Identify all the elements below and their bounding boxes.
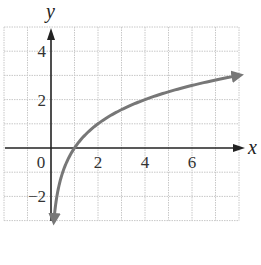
y-tick-label: 2: [38, 91, 47, 110]
x-tick-label: 4: [141, 153, 150, 172]
y-tick-label: −2: [28, 187, 46, 206]
y-axis-label: y: [44, 0, 55, 23]
x-tick-label: 6: [188, 153, 197, 172]
function-graph: x y 024642−2: [0, 0, 261, 265]
y-tick-label: 4: [38, 42, 47, 61]
x-tick-label: 0: [37, 153, 46, 172]
x-axis-label: x: [247, 136, 257, 158]
x-tick-label: 2: [94, 153, 103, 172]
y-axis-arrow-icon: [47, 28, 55, 40]
